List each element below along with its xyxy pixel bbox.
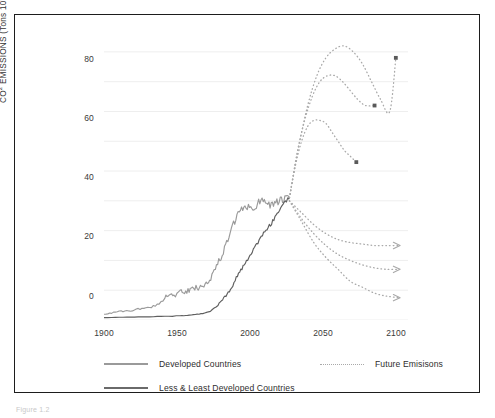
figure-caption: Figure 1.2 <box>16 406 50 413</box>
legend-swatch-less-least-developed-countries <box>104 387 148 388</box>
series-layer <box>104 46 399 318</box>
legend-label-less-least-developed-countries: Less & Least Developed Countries <box>159 383 295 393</box>
x-tick-label-1900: 1900 <box>84 328 124 338</box>
series-line-2 <box>289 46 395 198</box>
y-axis-title-mid: EMISSIONS (Tons 10 <box>0 0 8 86</box>
legend-swatch-future-emissions <box>320 364 364 365</box>
x-tick-label-1950: 1950 <box>157 328 197 338</box>
y-tick-label-0: 0 <box>70 291 94 301</box>
legend-item-developed-countries: Developed Countries <box>104 355 241 373</box>
future-endpoint-marker-3 <box>394 56 398 60</box>
legend-swatch-developed-countries <box>104 363 148 364</box>
legend-label-developed-countries: Developed Countries <box>159 359 241 369</box>
chart-svg <box>104 37 408 320</box>
future-endpoint-marker-5 <box>354 160 358 164</box>
legend-item-less-least-developed-countries: Less & Least Developed Countries <box>104 379 295 397</box>
series-line-1 <box>104 198 289 318</box>
x-tick-label-2000: 2000 <box>230 328 270 338</box>
legend-label-future-emissions: Future Emisisons <box>375 359 443 369</box>
legend-item-future-emissions: Future Emisisons <box>320 355 443 373</box>
series-line-4 <box>289 120 356 198</box>
y-tick-label-80: 80 <box>70 54 94 64</box>
y-tick-label-60: 60 <box>70 113 94 123</box>
gridlines <box>104 52 408 320</box>
y-tick-label-40: 40 <box>70 172 94 182</box>
plot-area <box>104 37 408 320</box>
series-line-0 <box>104 195 289 314</box>
series-line-3 <box>289 75 374 198</box>
figure-root: CO2 EMISSIONS (Tons 109) 0 20 40 60 80 1… <box>0 0 495 418</box>
series-line-6 <box>289 201 398 270</box>
y-tick-label-20: 20 <box>70 231 94 241</box>
x-tick-label-2100: 2100 <box>376 328 416 338</box>
y-axis-title-co: CO <box>0 90 8 103</box>
y-axis-title: CO2 EMISSIONS (Tons 109) <box>0 0 8 103</box>
chart-legend: Developed Countries Less & Least Develop… <box>104 355 474 401</box>
series-line-5 <box>289 201 398 246</box>
x-tick-label-2050: 2050 <box>303 328 343 338</box>
figure-frame: CO2 EMISSIONS (Tons 109) 0 20 40 60 80 1… <box>14 14 480 393</box>
y-axis-title-superscript-2: 2 <box>0 87 3 91</box>
series-line-7 <box>289 201 398 298</box>
future-endpoint-marker-4 <box>373 104 377 108</box>
